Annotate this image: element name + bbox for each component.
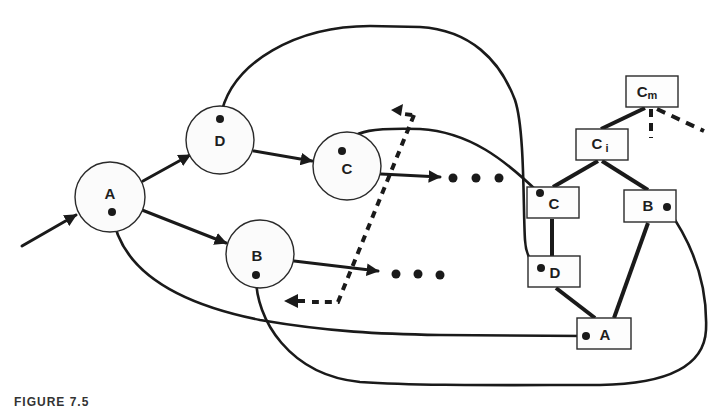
backtrack-arrowhead-top — [391, 104, 403, 116]
tree-node-D: D — [528, 256, 580, 287]
node-label: D — [550, 264, 561, 281]
tree-edge-Cm-Ci — [601, 108, 645, 129]
figure-caption: FIGURE 7.5 — [14, 395, 89, 409]
tree-node-C: C — [527, 187, 579, 218]
graph-node-A: A — [75, 162, 145, 232]
ellipsis-dot — [495, 174, 504, 183]
ellipsis-dot — [392, 270, 401, 279]
tree-edge-D-A — [556, 288, 595, 318]
node-label: C — [342, 160, 353, 177]
tree-edge-Ci-B — [602, 161, 648, 190]
pointer-dot-tree-D — [537, 264, 545, 272]
ellipsis-dot — [436, 271, 445, 280]
link-B-to-tree-B — [256, 208, 706, 385]
backtrack-arrowhead-bottom — [284, 294, 298, 308]
tree-edge-Ci-C — [553, 161, 598, 187]
pointer-dot-tree-B — [663, 203, 671, 211]
pointer-dot-graph-C — [338, 147, 346, 155]
tree-node-Ci: Ci — [576, 129, 628, 160]
node-label: A — [105, 185, 116, 202]
pointer-dot-graph-A — [108, 208, 116, 216]
graph-node-C: C — [313, 132, 381, 200]
pointer-dot-tree-A — [582, 332, 590, 340]
graph-node-B: B — [226, 220, 294, 288]
tree-edge-B-A — [614, 223, 648, 318]
node-label: D — [215, 132, 226, 149]
edge-D-to-C — [254, 151, 312, 161]
pointer-dot-tree-C — [536, 189, 544, 197]
tree-edge-Cm-right-dashed — [657, 109, 704, 131]
pointer-dot-graph-B — [252, 271, 260, 279]
entry-arrow — [22, 215, 76, 246]
ellipsis-dot — [449, 174, 458, 183]
edge-A-to-D — [143, 155, 190, 181]
ellipsis-dot — [414, 270, 423, 279]
tree-node-Cm: Cm — [626, 76, 678, 107]
node-label: C — [549, 195, 560, 212]
node-label: A — [600, 326, 611, 343]
node-label: B — [643, 197, 654, 214]
edge-A-to-B — [142, 210, 226, 243]
ellipsis-dot — [472, 174, 481, 183]
pointer-dot-graph-D — [216, 115, 224, 123]
dashed-backtrack-top — [404, 114, 412, 115]
node-label: B — [252, 247, 263, 264]
continuation-dots — [392, 174, 504, 280]
edge-B-to-more — [294, 261, 378, 271]
